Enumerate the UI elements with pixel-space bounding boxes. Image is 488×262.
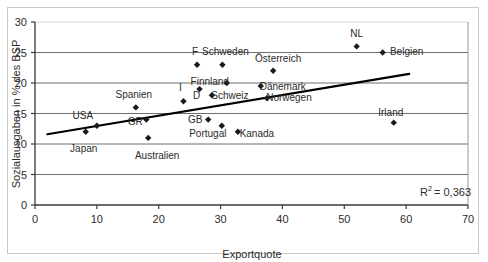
data-point-label: GB <box>188 114 203 125</box>
data-point-label: Irland <box>378 107 403 118</box>
data-point-marker <box>270 68 276 74</box>
data-point-marker <box>379 49 385 55</box>
data-point-label: Dänemark <box>260 81 307 92</box>
data-point-label: Japan <box>70 143 97 154</box>
x-tick-label: 60 <box>400 213 412 225</box>
y-tick-label: 0 <box>21 199 27 211</box>
data-point-label: I <box>179 82 182 93</box>
x-tick-label: 40 <box>276 213 288 225</box>
y-axis-title: Sozialausgaben in % des BSP <box>10 40 22 189</box>
x-tick-label: 50 <box>338 213 350 225</box>
x-tick-label: 10 <box>91 213 103 225</box>
data-point-label: Finnland <box>191 76 229 87</box>
x-tick-label: 0 <box>32 213 38 225</box>
data-point-label: D <box>193 90 200 101</box>
data-point-label: USA <box>73 110 94 121</box>
data-point-label: Österreich <box>255 53 301 64</box>
data-point-marker <box>94 123 100 129</box>
data-point-marker <box>133 104 139 110</box>
r-squared-exponent: 2 <box>428 185 432 192</box>
data-point-marker <box>391 119 397 125</box>
data-point-label: Portugal <box>189 128 226 139</box>
x-tick-label: 30 <box>214 213 226 225</box>
data-point-marker <box>194 62 200 68</box>
data-point-label: Belgien <box>390 46 423 57</box>
data-point-marker <box>205 116 211 122</box>
data-point-marker <box>83 129 89 135</box>
data-point-label: F <box>192 46 198 57</box>
data-point-marker <box>219 62 225 68</box>
r-squared-value: = 0,363 <box>434 186 471 198</box>
data-point-label: GR <box>128 116 143 127</box>
data-point-label: Kanada <box>240 128 275 139</box>
data-point-marker <box>180 98 186 104</box>
data-point-label: Schweden <box>202 46 249 57</box>
data-point-label: Spanien <box>115 89 152 100</box>
r-squared-symbol: R <box>420 186 428 198</box>
y-tick-label: 30 <box>15 16 27 28</box>
data-point-label: NL <box>350 28 363 39</box>
x-tick-labels: 010203040506070 <box>32 213 474 225</box>
x-tick-label: 20 <box>153 213 165 225</box>
scatter-chart: 010203040506070 051015202530 JapanUSASpa… <box>0 0 488 262</box>
data-point-marker <box>353 43 359 49</box>
data-point-label: Australien <box>135 150 179 161</box>
data-point-labels: JapanUSASpanienGRAustralienIFDSchwedenPo… <box>70 28 423 161</box>
data-point-label: Norwegen <box>266 92 312 103</box>
data-point-marker <box>145 135 151 141</box>
x-tick-label: 70 <box>462 213 474 225</box>
r-squared-annotation: R 2 = 0,363 <box>420 185 471 198</box>
chart-plot-area: 010203040506070 051015202530 JapanUSASpa… <box>0 0 488 262</box>
screenshot-root: · · 010203040506070 051015202530 JapanUS… <box>0 0 488 262</box>
x-axis-title: Exportquote <box>222 248 281 260</box>
data-point-label: Schweiz <box>211 90 248 101</box>
